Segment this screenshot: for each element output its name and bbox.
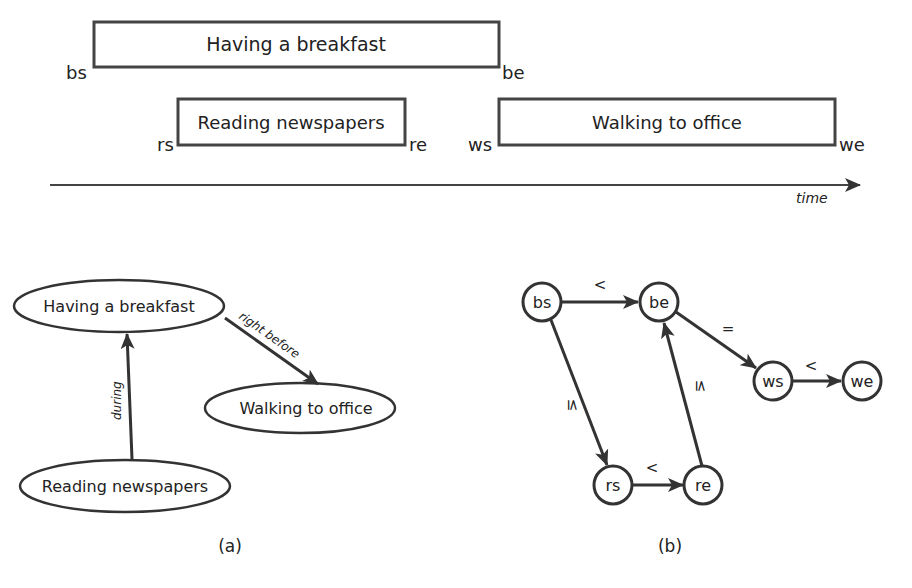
node-label-breakfast: Having a breakfast [43,297,194,316]
edge-label-be-ws: = [722,320,735,338]
panel-b: bs be ws we rs re < = < ≤ < ≤ (b) [523,276,881,556]
edge-re-be [664,323,702,466]
edge-label-bs-rs: ≤ [564,399,582,412]
panel-a: Having a breakfast Walking to office Rea… [14,280,395,556]
edge-label-bs-be: < [594,276,607,294]
endpoint-ws: ws [468,134,492,155]
node-label-re: re [695,476,711,495]
node-label-newspapers: Reading newspapers [42,477,208,496]
edge-label-re-be: ≤ [692,380,710,393]
edge-label-right-before: right before [236,309,302,361]
caption-b: (b) [658,536,682,556]
edge-label-ws-we: < [805,357,818,375]
edge-label-during: during [110,381,124,420]
endpoint-we: we [839,134,865,155]
event-label-breakfast: Having a breakfast [206,33,386,55]
edge-label-rs-re: < [646,459,659,477]
event-label-newspapers: Reading newspapers [197,112,384,133]
time-axis-label: time [796,190,828,206]
node-label-we: we [851,372,874,391]
node-label-bs: bs [533,293,552,312]
node-label-ws: ws [762,372,783,391]
node-label-be: be [649,293,669,312]
endpoint-re: re [409,134,427,155]
node-label-rs: rs [606,476,621,495]
node-label-walking: Walking to office [239,399,372,418]
endpoint-be: be [502,62,525,83]
edge-bs-rs [551,320,607,465]
caption-a: (a) [218,536,242,556]
temporal-diagram: Having a breakfast bs be Reading newspap… [0,0,912,588]
endpoint-bs: bs [66,62,87,83]
timeline: Having a breakfast bs be Reading newspap… [50,22,865,206]
edge-be-ws [676,312,756,368]
endpoint-rs: rs [157,134,174,155]
event-label-walking: Walking to office [592,112,742,133]
edge-during [127,334,132,459]
